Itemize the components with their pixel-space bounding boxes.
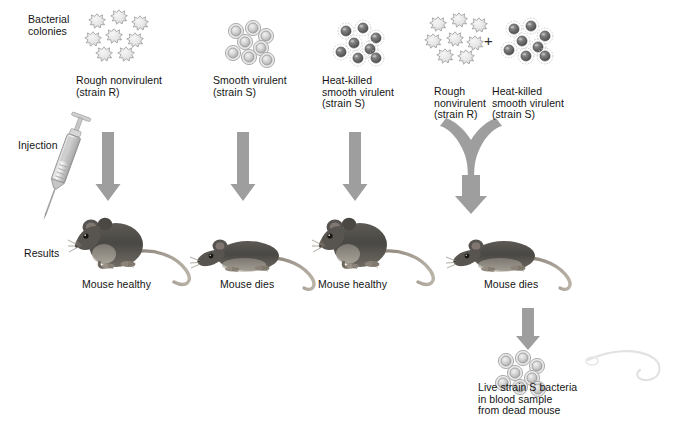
- arrow-down-followup: [516, 308, 540, 350]
- mouse-healthy-1: [68, 218, 189, 285]
- colony-cluster-heatkilled-4: [501, 18, 553, 64]
- result-label-mouse-dies-4: Mouse dies: [484, 279, 538, 291]
- arrow-down-2: [231, 132, 256, 201]
- figure-canvas: Bacterial colonies Injection Results Rou…: [0, 0, 690, 424]
- colony-cluster-heatkilled-3: [333, 20, 384, 66]
- stray-mouse-tail-icon: [586, 351, 660, 380]
- diagram-artwork: [0, 0, 690, 424]
- colony-label-rough-nonvirulent: Rough nonvirulent (strain R): [76, 75, 162, 98]
- colony-label-smooth-virulent: Smooth virulent (strain S): [213, 75, 287, 98]
- arrow-merge-4: [440, 118, 502, 214]
- colony-cluster-smooth-2: [225, 20, 274, 67]
- row-label-injection: Injection: [18, 140, 58, 152]
- arrow-down-3: [343, 132, 368, 201]
- colony-cluster-rough-4: [425, 13, 488, 64]
- result-label-mouse-healthy-1: Mouse healthy: [82, 279, 151, 291]
- row-label-bacterial-colonies: Bacterial colonies: [28, 14, 69, 37]
- result-label-mouse-dies-2: Mouse dies: [220, 279, 274, 291]
- colony-label-rough-nonvirulent-4: Rough nonvirulent (strain R): [434, 86, 486, 121]
- row-label-results: Results: [24, 248, 59, 260]
- result-label-mouse-healthy-3: Mouse healthy: [318, 279, 387, 291]
- arrow-down-1: [96, 132, 121, 201]
- mouse-healthy-3: [312, 218, 433, 285]
- colony-cluster-rough-1: [85, 10, 149, 61]
- colony-label-heat-killed-smooth-virulent: Heat-killed smooth virulent (strain S): [322, 75, 394, 110]
- plus-sign-icon: +: [484, 32, 493, 49]
- followup-label-live-strain-s: Live strain S bacteria in blood sample f…: [478, 382, 577, 417]
- colony-label-heat-killed-smooth-virulent-4: Heat-killed smooth virulent (strain S): [492, 86, 564, 121]
- syringe-icon: [34, 112, 91, 224]
